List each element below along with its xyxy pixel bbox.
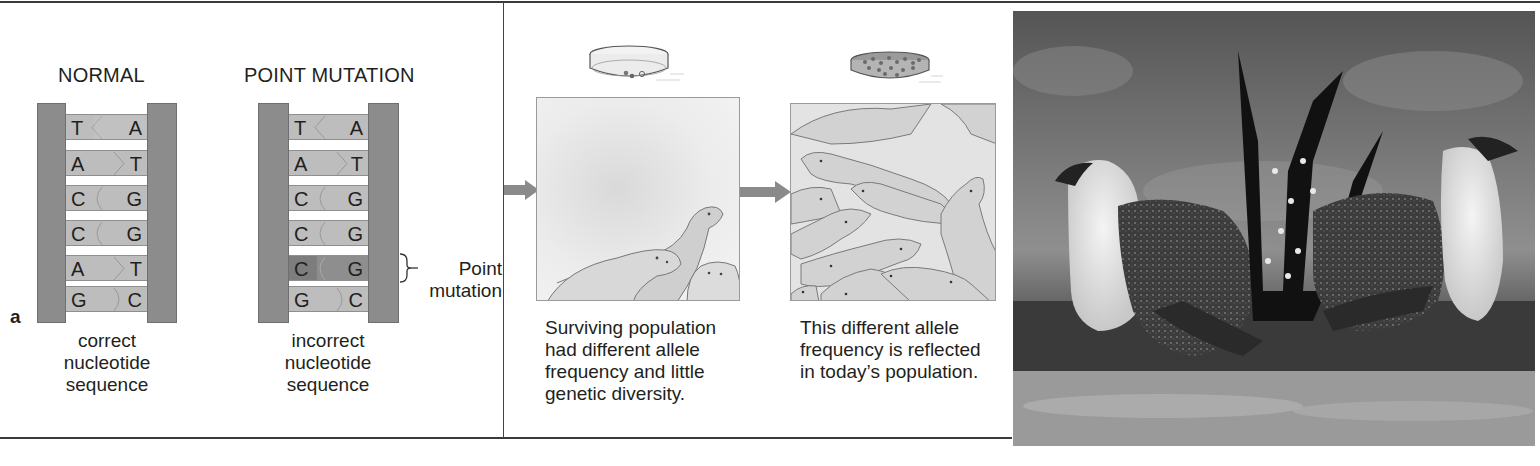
sage-grouse-photo [1013,11,1535,446]
base-pair: C G [66,185,147,211]
base-right: G [126,187,142,211]
seals-many-illustration-icon [791,104,996,301]
base-right: G [347,257,363,281]
base-right: A [129,116,142,140]
backbone-left [258,103,289,323]
base-left: C [71,222,85,246]
caption-line: Surviving population [545,317,745,339]
panel-divider [503,2,504,438]
base-right: T [130,257,142,281]
base-left: C [71,187,85,211]
base-left: G [71,288,87,312]
base-left: A [71,152,84,176]
base-pair: C G [66,220,147,246]
backbone-right [368,103,399,323]
caption-line: correct [42,330,172,352]
base-left: A [71,257,84,281]
petri-dish-few-icon [586,44,686,88]
arrow-right-icon [504,180,540,200]
caption-line: frequency and little [545,361,745,383]
base-pair: G C [66,286,147,312]
caption-line: This different allele [800,317,1010,339]
base-right: G [126,222,142,246]
backbone-right [147,103,177,323]
base-left: C [294,257,308,281]
caption-line: incorrect [258,330,398,352]
today-population-caption: This different allele frequency is refle… [800,317,1010,383]
base-pair: C G [289,220,368,246]
arrow-right-icon [740,181,792,203]
caption-line: in today’s population. [800,361,1010,383]
base-left: A [294,152,307,176]
caption-line: sequence [258,374,398,396]
top-rule [0,1,1540,3]
normal-title: NORMAL [58,64,145,87]
base-left: G [294,288,310,312]
sage-grouse-photo-image [1013,11,1535,446]
caption-line: had different allele [545,339,745,361]
backbone-left [37,103,66,323]
base-pair: T A [289,114,368,140]
caption-line: frequency is reflected [800,339,1010,361]
base-left: T [71,116,83,140]
point-mutation-title: POINT MUTATION [244,64,415,87]
base-pair: A T [66,255,147,281]
normal-caption: correct nucleotide sequence [42,330,172,396]
base-right: T [351,152,363,176]
base-pair: G C [289,286,368,312]
base-right: T [130,152,142,176]
base-pair: T A [66,114,147,140]
base-right: C [128,288,142,312]
panel-letter: a [10,306,21,328]
label-line: mutation [400,280,502,302]
base-left: C [294,222,308,246]
bottom-rule [0,437,1012,439]
caption-line: genetic diversity. [545,383,745,405]
seals-few-illustration-icon [537,98,740,301]
base-pair: A T [289,150,368,176]
seal-illustration-few [536,97,740,301]
base-right: C [349,288,363,312]
base-pair: A T [66,150,147,176]
base-pair-mutated: C G [289,255,368,281]
caption-line: nucleotide [258,352,398,374]
base-left: C [294,187,308,211]
base-right: G [347,222,363,246]
label-line: Point [400,258,502,280]
caption-line: sequence [42,374,172,396]
mutation-caption: incorrect nucleotide sequence [258,330,398,396]
seal-illustration-many [790,103,996,301]
point-mutation-label: Point mutation [400,258,502,302]
base-right: A [350,116,363,140]
base-pair: C G [289,185,368,211]
surviving-population-caption: Surviving population had different allel… [545,317,745,405]
petri-dish-many-icon [845,50,945,90]
base-right: G [347,187,363,211]
base-left: T [294,116,306,140]
caption-line: nucleotide [42,352,172,374]
